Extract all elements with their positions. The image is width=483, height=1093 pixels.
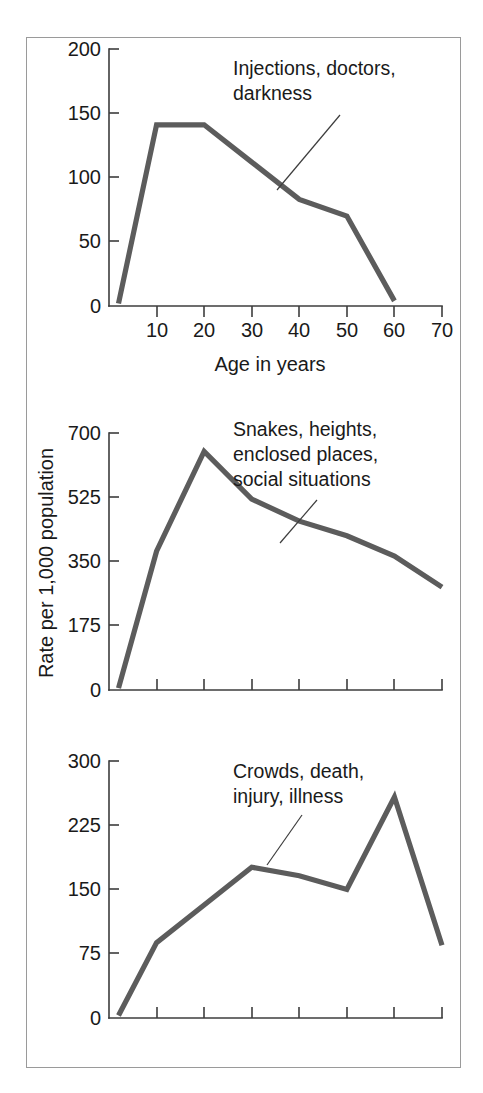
chart-1-annotation-line-2: darkness bbox=[233, 82, 312, 104]
chart-panel-snakes-heights-enclosed-social: 700 525 350 175 0 Snakes, heights, enclo… bbox=[27, 383, 462, 743]
chart-3-annotation-line-1: Crowds, death, bbox=[233, 760, 364, 782]
chart-2-ylabel-0: 0 bbox=[90, 679, 101, 701]
chart-3-ylabel-150: 150 bbox=[68, 878, 101, 900]
chart-2-ylabel-175: 175 bbox=[68, 614, 101, 636]
chart-2-svg: 700 525 350 175 0 Snakes, heights, enclo… bbox=[27, 383, 462, 743]
chart-2-leader-line bbox=[280, 500, 317, 543]
chart-1-ylabel-100: 100 bbox=[68, 166, 101, 188]
chart-1-annotation-line-1: Injections, doctors, bbox=[233, 57, 396, 79]
chart-1-xlabel-10: 10 bbox=[146, 319, 168, 341]
chart-2-y-axis-title: Rate per 1,000 population bbox=[35, 448, 57, 678]
chart-3-ylabel-75: 75 bbox=[79, 942, 101, 964]
chart-1-ylabel-0: 0 bbox=[90, 295, 101, 317]
chart-3-ylabel-225: 225 bbox=[68, 814, 101, 836]
chart-2-ylabel-700: 700 bbox=[68, 422, 101, 444]
chart-1-svg: 200 150 100 50 0 10 20 30 40 50 60 70 In bbox=[27, 38, 462, 383]
chart-3-ylabel-300: 300 bbox=[68, 750, 101, 772]
chart-1-xlabel-20: 20 bbox=[193, 319, 215, 341]
chart-3-annotation-line-2: injury, illness bbox=[233, 785, 343, 807]
chart-3-data-line bbox=[119, 797, 442, 1015]
chart-2-annotation-line-3: social situations bbox=[233, 468, 371, 490]
chart-3-leader-line bbox=[267, 815, 302, 865]
chart-1-xlabel-70: 70 bbox=[431, 319, 453, 341]
chart-panel-injections-doctors-darkness: 200 150 100 50 0 10 20 30 40 50 60 70 In bbox=[27, 38, 462, 383]
figure-frame: 200 150 100 50 0 10 20 30 40 50 60 70 In bbox=[26, 37, 461, 1068]
chart-3-svg: 300 225 150 75 0 Crowds, death, injury, … bbox=[27, 743, 462, 1069]
chart-2-annotation-line-1: Snakes, heights, bbox=[233, 418, 377, 440]
chart-1-xlabel-30: 30 bbox=[241, 319, 263, 341]
chart-1-ylabel-50: 50 bbox=[79, 230, 101, 252]
chart-1-ylabel-150: 150 bbox=[68, 102, 101, 124]
chart-1-xlabel-60: 60 bbox=[383, 319, 405, 341]
chart-2-ylabel-350: 350 bbox=[68, 550, 101, 572]
chart-1-data-line bbox=[119, 125, 395, 304]
chart-1-xlabel-40: 40 bbox=[288, 319, 310, 341]
chart-1-leader-line bbox=[277, 115, 340, 190]
chart-2-annotation-line-2: enclosed places, bbox=[233, 443, 378, 465]
chart-3-ylabel-0: 0 bbox=[90, 1007, 101, 1029]
chart-1-x-axis-title: Age in years bbox=[214, 353, 325, 375]
chart-1-ylabel-200: 200 bbox=[68, 38, 101, 60]
chart-1-xlabel-50: 50 bbox=[336, 319, 358, 341]
chart-2-ylabel-525: 525 bbox=[68, 486, 101, 508]
chart-panel-crowds-death-injury-illness: 300 225 150 75 0 Crowds, death, injury, … bbox=[27, 743, 462, 1069]
